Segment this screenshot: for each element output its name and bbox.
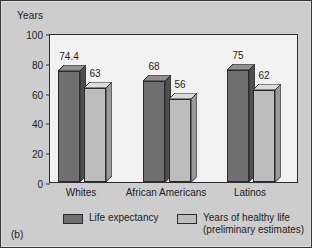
bar-group: 7562 [221,35,281,182]
y-axis-tick-0: 0 [37,179,50,190]
figure-panel: Years 02040608010074.46368567562 WhitesA… [0,0,312,248]
plot-inner: 02040608010074.46368567562 [50,35,297,182]
bar-value-label: 74.4 [59,51,78,62]
bar-front-face [84,88,106,182]
y-axis-tick-mark [46,94,50,95]
legend-label-healthy-life-line2: (preliminary estimates) [203,224,304,235]
y-axis-tick-mark [46,154,50,155]
bar-top-face [227,64,255,70]
bar-front-face [58,71,80,182]
figure-caption: (b) [11,229,23,240]
bar-group: 74.463 [52,35,112,182]
bar-whites-series-0[interactable]: 74.4 [58,71,80,182]
bar-front-face [143,81,165,182]
bar-side-face [275,84,281,182]
bar-front-face [227,70,249,182]
y-axis-tick-label: 20 [32,149,46,160]
y-axis-tick-label: 80 [32,59,46,70]
x-axis-label-latinos: Latinos [234,187,266,198]
bar-value-label: 68 [148,61,159,72]
bar-value-label: 56 [174,79,185,90]
bar-top-face [58,65,86,71]
bar-value-label: 75 [232,50,243,61]
bar-top-face [169,93,197,99]
bar-value-label: 63 [89,68,100,79]
legend-label-healthy-life: Years of healthy life(preliminary estima… [203,212,304,236]
y-axis-tick-mark [46,184,50,185]
bar-latinos-series-0[interactable]: 75 [227,70,249,182]
y-axis-tick-100: 100 [26,30,50,41]
bar-side-face [191,93,197,182]
chart-legend: Life expectancy Years of healthy life(pr… [1,206,311,248]
bar-latinos-series-1[interactable]: 62 [253,90,275,182]
bar-value-label: 62 [258,70,269,81]
legend-swatch-healthy-life [177,214,197,224]
x-axis-label-african-americans: African Americans [126,187,207,198]
y-axis-tick-40: 40 [32,119,50,130]
bar-side-face [106,82,112,182]
bar-whites-series-1[interactable]: 63 [84,88,106,182]
bar-front-face [253,90,275,182]
y-axis-tick-label: 100 [26,30,46,41]
y-axis-tick-label: 40 [32,119,46,130]
y-axis-tick-label: 60 [32,89,46,100]
legend-label-life-expectancy: Life expectancy [89,212,159,224]
bar-top-face [253,84,281,90]
y-axis-tick-80: 80 [32,59,50,70]
bar-african-americans-series-0[interactable]: 68 [143,81,165,182]
y-axis-title: Years [17,10,43,21]
plot-area: 02040608010074.46368567562 [49,34,298,183]
bar-african-americans-series-1[interactable]: 56 [169,99,191,182]
legend-item-healthy-life[interactable]: Years of healthy life(preliminary estima… [177,212,304,236]
y-axis-tick-mark [46,124,50,125]
legend-item-life-expectancy[interactable]: Life expectancy [63,212,159,224]
legend-swatch-life-expectancy [63,214,83,224]
y-axis-tick-60: 60 [32,89,50,100]
bar-top-face [84,82,112,88]
y-axis-tick-mark [46,64,50,65]
y-axis-tick-20: 20 [32,149,50,160]
y-axis-tick-label: 0 [37,179,46,190]
bar-top-face [143,75,171,81]
legend-label-healthy-life-line1: Years of healthy life [203,212,290,223]
y-axis-tick-mark [46,35,50,36]
bar-group: 6856 [137,35,197,182]
x-axis-label-whites: Whites [66,187,97,198]
bar-front-face [169,99,191,182]
